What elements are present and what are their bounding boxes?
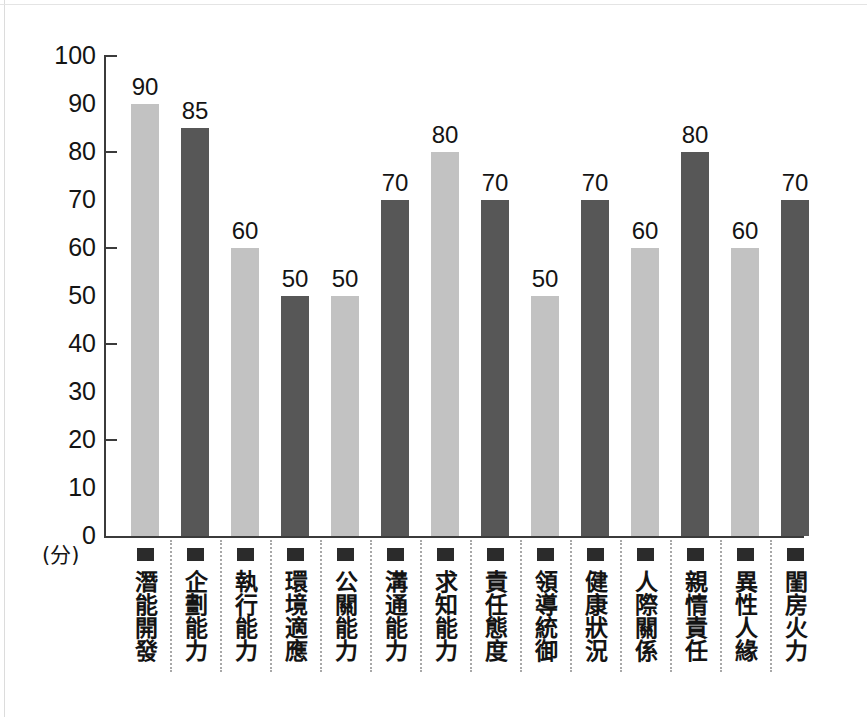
y-axis-label-70: 70 [38, 187, 96, 212]
y-axis-label-10: 10 [38, 475, 96, 500]
category-label-text: 領導統御 [532, 570, 558, 662]
category-label-2: 企劃能力 [170, 548, 220, 662]
category-marker-icon [137, 548, 154, 561]
category-label-7: 求知能力 [420, 548, 470, 662]
bar-value-12: 80 [665, 123, 725, 147]
y-axis-label-80: 80 [38, 139, 96, 164]
y-axis-label-20: 20 [38, 427, 96, 452]
bar-1 [131, 104, 159, 536]
y-axis-tick-60 [104, 247, 117, 249]
category-marker-icon [737, 548, 754, 561]
bar-value-8: 70 [465, 171, 525, 195]
category-label-12: 親情責任 [670, 548, 720, 662]
category-label-text: 公關能力 [332, 570, 358, 662]
x-axis-line [104, 536, 804, 538]
category-label-13: 異性人緣 [720, 548, 770, 662]
y-axis-label-90: 90 [38, 91, 96, 116]
category-label-text: 親情責任 [682, 570, 708, 662]
bar-value-2: 85 [165, 99, 225, 123]
bar-13 [731, 248, 759, 536]
category-label-text: 異性人緣 [732, 570, 758, 662]
category-marker-icon [687, 548, 704, 561]
y-axis-label-text: 100 [38, 43, 96, 68]
y-axis-label-text: 30 [38, 379, 96, 404]
bar-value-3: 60 [215, 219, 275, 243]
bar-8 [481, 200, 509, 536]
bar-value-10: 70 [565, 171, 625, 195]
bar-9 [531, 296, 559, 536]
category-label-1: 潛能開發 [120, 548, 170, 662]
category-label-4: 環境適應 [270, 548, 320, 662]
y-axis-label-text: 50 [38, 283, 96, 308]
category-label-text: 環境適應 [282, 570, 308, 662]
bar-3 [231, 248, 259, 536]
bar-value-6: 70 [365, 171, 425, 195]
bar-12 [681, 152, 709, 536]
category-label-10: 健康狀況 [570, 548, 620, 662]
category-label-3: 執行能力 [220, 548, 270, 662]
bar-10 [581, 200, 609, 536]
category-marker-icon [337, 548, 354, 561]
bar-value-5: 50 [315, 267, 375, 291]
category-label-9: 領導統御 [520, 548, 570, 662]
y-axis-label-text: 20 [38, 427, 96, 452]
category-marker-icon [587, 548, 604, 561]
y-axis-unit-label: (分) [42, 545, 79, 566]
category-label-6: 溝通能力 [370, 548, 420, 662]
y-axis-label-text: 80 [38, 139, 96, 164]
y-axis-tick-80 [104, 151, 117, 153]
y-axis-label-text: 70 [38, 187, 96, 212]
category-label-14: 閨房火力 [770, 548, 820, 662]
category-marker-icon [437, 548, 454, 561]
y-axis-label-text: 60 [38, 235, 96, 260]
category-label-5: 公關能力 [320, 548, 370, 662]
bar-chart: 1009080706050403020100 (分) 9085605050708… [0, 0, 867, 717]
bar-value-11: 60 [615, 219, 675, 243]
category-marker-icon [287, 548, 304, 561]
y-axis-tick-100 [104, 55, 117, 57]
category-marker-icon [187, 548, 204, 561]
bar-value-1: 90 [115, 75, 175, 99]
y-axis-label-30: 30 [38, 379, 96, 404]
bar-7 [431, 152, 459, 536]
category-marker-icon [537, 548, 554, 561]
category-label-8: 責任態度 [470, 548, 520, 662]
bar-2 [181, 128, 209, 536]
category-label-text: 溝通能力 [382, 570, 408, 662]
bar-6 [381, 200, 409, 536]
category-label-11: 人際關係 [620, 548, 670, 662]
bar-value-9: 50 [515, 267, 575, 291]
category-marker-icon [787, 548, 804, 561]
y-axis-label-text: 40 [38, 331, 96, 356]
category-label-text: 求知能力 [432, 570, 458, 662]
category-marker-icon [387, 548, 404, 561]
bar-value-13: 60 [715, 219, 775, 243]
bar-value-7: 80 [415, 123, 475, 147]
y-axis-tick-20 [104, 439, 117, 441]
y-axis-line [104, 56, 106, 538]
bar-11 [631, 248, 659, 536]
category-label-text: 執行能力 [232, 570, 258, 662]
bar-5 [331, 296, 359, 536]
bar-4 [281, 296, 309, 536]
category-label-text: 健康狀況 [582, 570, 608, 662]
y-axis-label-text: 10 [38, 475, 96, 500]
category-marker-icon [237, 548, 254, 561]
bar-14 [781, 200, 809, 536]
category-label-text: 人際關係 [632, 570, 658, 662]
y-axis-label-text: 90 [38, 91, 96, 116]
bar-value-14: 70 [765, 171, 825, 195]
category-marker-icon [637, 548, 654, 561]
y-axis-label-60: 60 [38, 235, 96, 260]
chart-page: 1009080706050403020100 (分) 9085605050708… [0, 0, 867, 717]
y-axis-tick-40 [104, 343, 117, 345]
category-label-text: 企劃能力 [182, 570, 208, 662]
y-axis-label-100: 100 [38, 43, 96, 68]
category-label-text: 閨房火力 [782, 570, 808, 662]
y-axis-label-40: 40 [38, 331, 96, 356]
category-label-text: 潛能開發 [132, 570, 158, 662]
category-label-text: 責任態度 [482, 570, 508, 662]
y-axis-label-50: 50 [38, 283, 96, 308]
category-marker-icon [487, 548, 504, 561]
